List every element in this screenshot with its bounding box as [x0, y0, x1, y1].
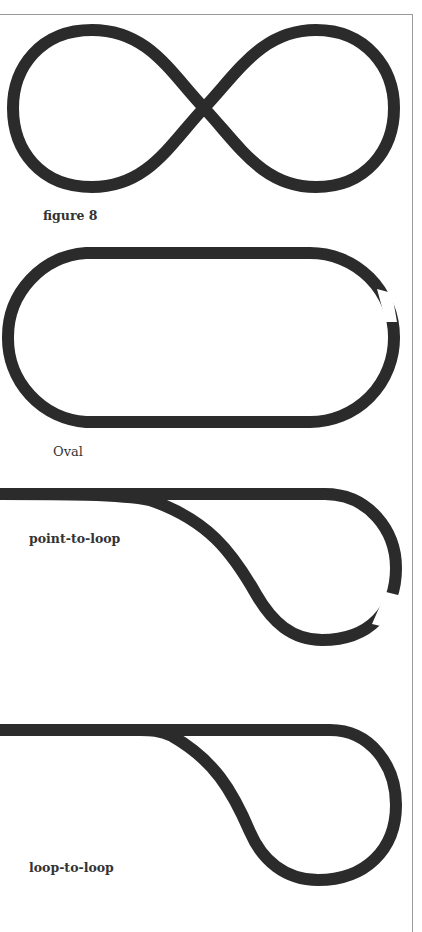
point-to-loop-label: point-to-loop	[29, 531, 120, 546]
oval-track	[8, 253, 397, 422]
point-to-loop-track	[0, 494, 402, 640]
track-diagrams	[0, 0, 422, 932]
loop-to-loop-label: loop-to-loop	[29, 860, 114, 875]
oval-track-gap	[377, 289, 397, 322]
loop-to-loop-track	[0, 730, 396, 880]
figure-8-track	[13, 30, 394, 187]
point-to-loop-track-gap	[372, 592, 402, 628]
oval-label: Oval	[53, 444, 83, 459]
figure-8-label: figure 8	[43, 208, 98, 223]
